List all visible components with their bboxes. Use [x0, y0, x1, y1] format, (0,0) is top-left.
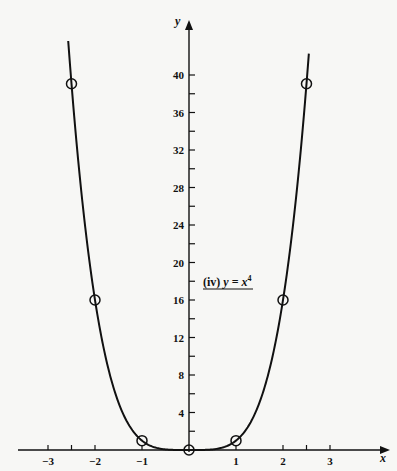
- x-tick-label: 1: [233, 455, 239, 467]
- y-tick-label: 40: [173, 69, 185, 81]
- y-tick-label: 36: [173, 107, 185, 119]
- x-axis-label: x: [379, 451, 386, 465]
- y-axis-arrow-icon: [185, 20, 193, 30]
- y-tick-label: 16: [173, 294, 185, 306]
- x-tick-label: −3: [42, 455, 54, 467]
- y-tick-label: 12: [173, 332, 185, 344]
- function-graph: −3−2−1123481216202428323640 (iv) y = x4 …: [0, 0, 397, 471]
- x-tick-label: −1: [136, 455, 148, 467]
- y-tick-label: 20: [173, 257, 185, 269]
- y-tick-label: 4: [179, 407, 185, 419]
- y-tick-label: 32: [173, 144, 185, 156]
- y-axis-label: y: [173, 14, 181, 28]
- x-tick-label: 3: [327, 455, 333, 467]
- y-tick-label: 8: [179, 369, 185, 381]
- x-tick-label: −2: [89, 455, 101, 467]
- y-tick-label: 28: [173, 182, 185, 194]
- axes: −3−2−1123481216202428323640: [18, 20, 390, 467]
- y-tick-label: 24: [173, 219, 185, 231]
- curve-annotation: (iv) y = x4: [203, 274, 252, 289]
- x-tick-label: 2: [280, 455, 286, 467]
